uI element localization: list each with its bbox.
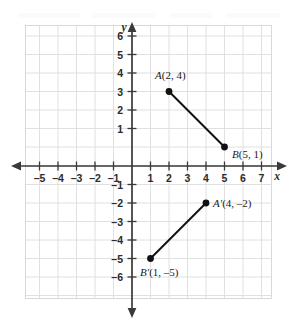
x-axis-left-arrow <box>11 162 21 171</box>
y-tick-label: –2 <box>111 197 123 209</box>
y-tick-label: –5 <box>111 253 123 265</box>
x-tick-label: 2 <box>166 172 172 184</box>
y-tick-label: 4 <box>117 67 123 79</box>
point-a-label: A(2, 4) <box>154 69 186 82</box>
point-a-prime-name: A′ <box>212 197 223 209</box>
y-axis-label: y <box>119 21 127 34</box>
x-tick-label: 6 <box>240 172 246 184</box>
point-a-prime-coords: (4, –2) <box>222 197 252 210</box>
x-tick-label: –3 <box>71 172 83 184</box>
point-b-prime-label: B′(1, –5) <box>140 266 179 279</box>
x-tick-label: –2 <box>89 172 101 184</box>
y-tick-label: –4 <box>111 234 123 246</box>
x-tick-label: –5 <box>34 172 46 184</box>
x-tick-label: 3 <box>185 172 191 184</box>
point-b <box>221 144 228 151</box>
y-tick-label: 3 <box>117 86 123 98</box>
x-tick-label: 1 <box>148 172 154 184</box>
x-tick-label: 4 <box>203 172 209 184</box>
y-tick-label: –1 <box>111 179 123 191</box>
point-a-coords: (2, 4) <box>162 69 186 82</box>
x-tick-label: –4 <box>52 172 64 184</box>
y-axis-bottom-arrow <box>128 308 137 318</box>
y-tick-label: 2 <box>117 104 123 116</box>
point-b-coords: (5, 1) <box>239 148 263 161</box>
point-a-prime <box>203 200 210 207</box>
y-tick-label: –3 <box>111 216 123 228</box>
point-b-prime <box>147 255 154 262</box>
coordinate-plane-figure: –5 –4 –3 –2 –1 1 2 3 4 5 6 7 6 5 4 3 2 1… <box>0 0 298 324</box>
x-tick-label: 7 <box>259 172 265 184</box>
graph-canvas: –5 –4 –3 –2 –1 1 2 3 4 5 6 7 6 5 4 3 2 1… <box>0 0 298 324</box>
x-tick-label: 5 <box>222 172 228 184</box>
y-tick-label: 5 <box>117 49 123 61</box>
point-b-prime-coords: (1, –5) <box>149 266 179 279</box>
point-a-prime-label: A′(4, –2) <box>212 197 252 210</box>
y-tick-label: –6 <box>111 271 123 283</box>
y-tick-label: 1 <box>117 123 123 135</box>
point-a <box>166 88 173 95</box>
x-axis-label: x <box>273 170 280 182</box>
point-b-label: B(5, 1) <box>232 148 263 161</box>
